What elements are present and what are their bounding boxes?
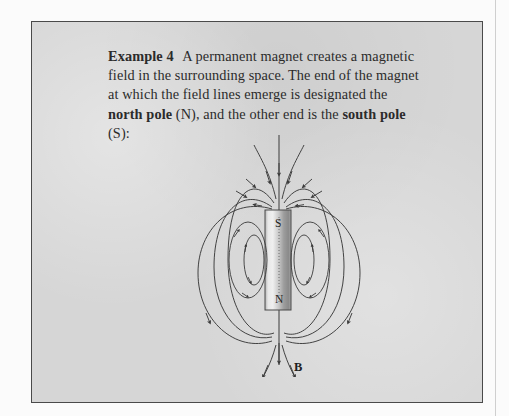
outer-field-line-right-2-arrow: [312, 191, 322, 197]
outer-field-line-left-3-arrow: [246, 179, 255, 187]
north-pole-term: north pole: [108, 106, 172, 122]
example-body-part-2: (N), and the other end is the: [172, 106, 342, 122]
pole-line-left-bottom-arrow: [263, 365, 268, 377]
outer-field-line-left-1-arrow-top: [254, 205, 262, 206]
field-label-B: B: [294, 360, 302, 374]
south-pole-term: south pole: [342, 106, 405, 122]
inner-loop-left-inner-arrow-top: [245, 245, 246, 252]
inner-loop-right-inner: [294, 235, 314, 285]
example-body-part-3: (S):: [108, 125, 130, 141]
south-pole-label: S: [275, 217, 281, 229]
example-box: Example 4 A permanent magnet creates a m…: [31, 21, 483, 403]
outer-field-line-right-1-arrow-top: [296, 205, 304, 206]
outer-field-line-left-1: [198, 206, 272, 343]
inner-loop-right-inner-arrow-top: [312, 245, 313, 252]
pole-line-left-bottom: [256, 345, 276, 377]
outer-field-line-right-3-arrow: [303, 179, 312, 187]
bar-magnet: S N: [265, 210, 291, 310]
north-pole-label: N: [275, 293, 284, 305]
inner-loop-right-outer: [291, 222, 329, 298]
heading-spacer: [174, 48, 183, 64]
outer-field-line-right-1: [286, 206, 360, 343]
example-heading: Example 4: [108, 48, 174, 64]
page-margin-rule: [495, 0, 496, 416]
pole-line-left-top: [254, 145, 276, 199]
outer-field-line-left-2-arrow: [236, 191, 246, 197]
inner-loop-left-outer: [229, 222, 267, 298]
bar-magnet-field-line-diagram: S N: [184, 127, 374, 377]
pole-line-right-top: [282, 145, 304, 199]
inner-loop-left-inner: [244, 235, 264, 285]
